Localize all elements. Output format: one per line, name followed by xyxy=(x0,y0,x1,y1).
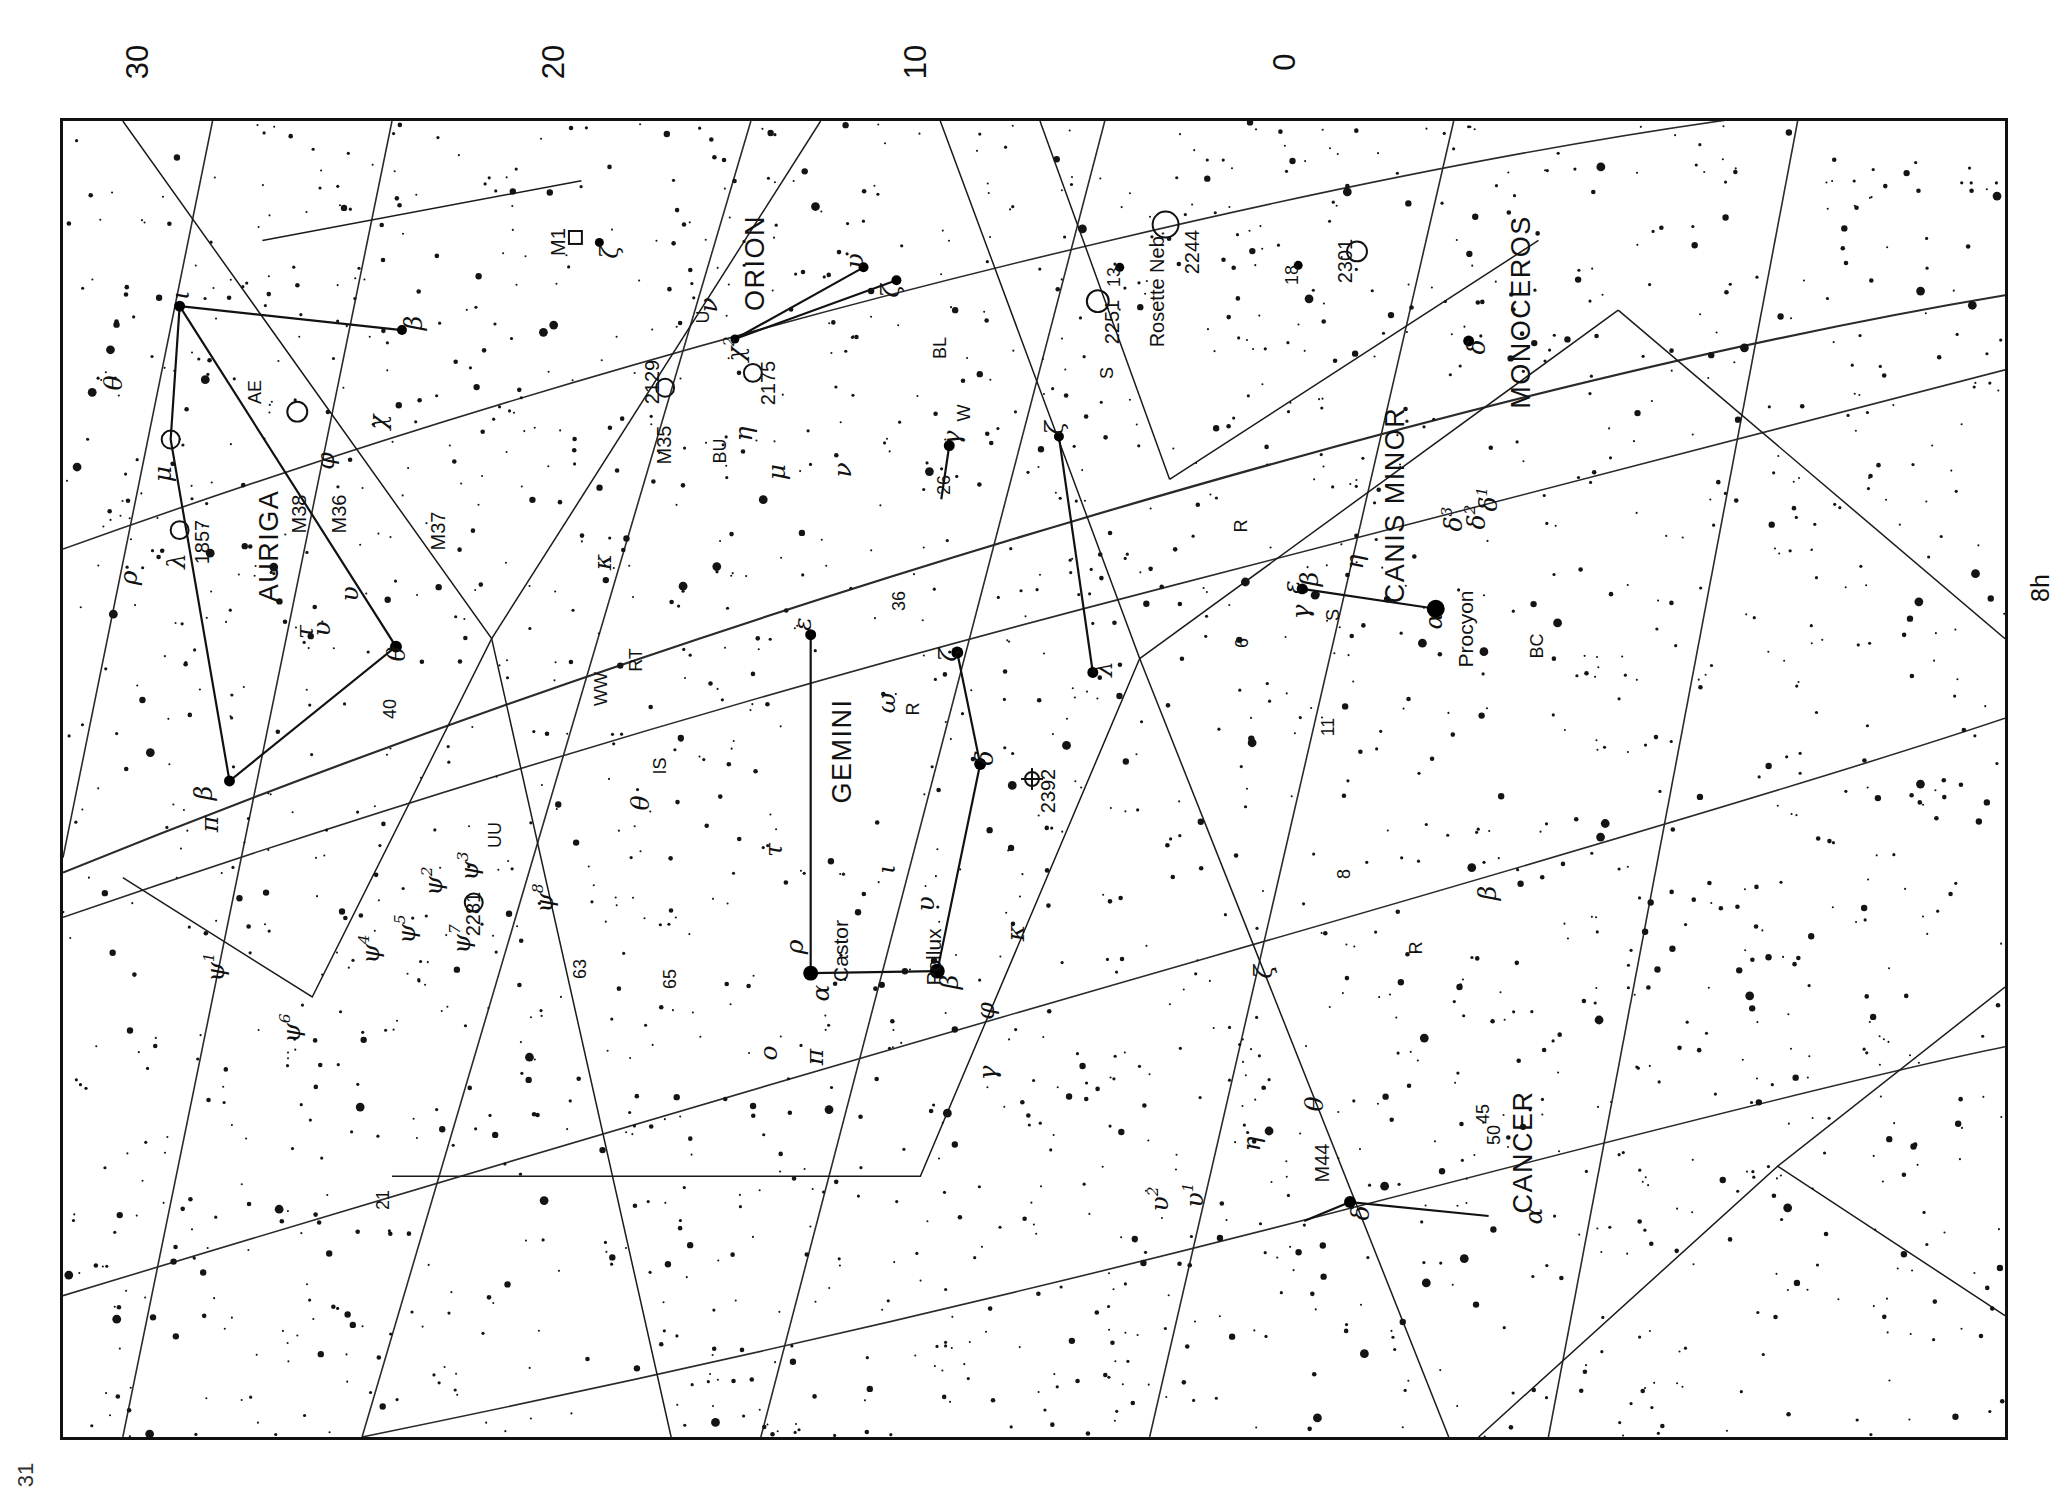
star-label-67: β xyxy=(1475,886,1500,900)
star-label-47: ζ xyxy=(936,648,961,662)
star-label-23: W xyxy=(955,405,973,422)
dso-label-1857: 1857 xyxy=(192,520,212,565)
star-label-28: υ xyxy=(337,586,362,601)
star-label-33: R xyxy=(1232,520,1250,533)
star-label-87: 45 xyxy=(1474,1104,1492,1124)
star-label-18: η xyxy=(731,427,756,442)
star-label-69: ψ7 xyxy=(448,924,473,953)
star-label-83: o xyxy=(756,1045,781,1060)
star-label-4: ζ xyxy=(878,284,903,298)
star-label-59: π xyxy=(197,816,222,832)
star-label-19: BU xyxy=(711,438,729,463)
dso-label-m36: M36 xyxy=(329,495,349,534)
star-label-48: λ xyxy=(1091,661,1116,677)
star-label-43: υ xyxy=(309,621,334,636)
star-label-1: β xyxy=(401,316,426,330)
star-label-71: υ xyxy=(913,896,938,911)
star-label-27: ρ xyxy=(116,571,141,586)
star-label-79: ψ1 xyxy=(202,952,227,981)
star-label-14: θ xyxy=(101,375,126,390)
constellation-label-cancer: CANCER xyxy=(1510,1090,1537,1213)
star-label-92: υ1 xyxy=(1181,1182,1206,1207)
star-label-0: ι xyxy=(168,290,193,300)
declination-tick-0: 0 xyxy=(1267,53,1303,70)
star-label-86: θ xyxy=(1302,1096,1327,1111)
star-label-89: η xyxy=(1239,1137,1264,1152)
star-label-55: IS xyxy=(651,757,669,774)
star-label-20: μ xyxy=(764,464,789,480)
star-label-58: β xyxy=(191,786,216,800)
star-label-7: χ2 xyxy=(722,336,747,361)
constellation-label-auriga: AURIGA xyxy=(256,490,283,603)
dso-label-2244: 2244 xyxy=(1182,230,1202,275)
named-star-label-procyon: Procyon xyxy=(1455,590,1476,667)
declination-tick-30: 30 xyxy=(120,45,156,79)
star-label-30: 26 xyxy=(935,475,953,495)
star-label-46: WW xyxy=(592,672,610,706)
star-label-10: 18 xyxy=(1283,265,1301,285)
star-label-91: υ2 xyxy=(1146,1186,1171,1211)
star-label-17: μ xyxy=(150,466,175,482)
star-label-34: η xyxy=(1342,555,1367,570)
star-label-62: ψ3 xyxy=(456,851,481,880)
dso-label-rosette-neb-: Rosette Neb. xyxy=(1147,231,1167,348)
dso-label-m1: M1 xyxy=(548,228,568,256)
ra-tick-8h: 8h xyxy=(2026,574,2055,602)
star-label-36: ε xyxy=(1279,580,1304,593)
named-star-label-castor: Castor xyxy=(830,920,851,982)
star-label-37: γ xyxy=(1288,605,1313,620)
star-label-78: β xyxy=(937,975,962,989)
star-label-32: ε xyxy=(790,617,815,630)
star-label-39: α xyxy=(1421,613,1446,630)
star-label-41: δ2 xyxy=(1463,505,1488,530)
star-label-24: ζ xyxy=(1042,421,1067,435)
constellation-label-orion: ORION xyxy=(742,215,769,311)
star-label-61: τ xyxy=(761,843,786,857)
star-label-26: λ xyxy=(164,553,189,569)
star-label-22: γ xyxy=(939,431,964,446)
star-label-76: 65 xyxy=(661,969,679,989)
dso-label-2175: 2175 xyxy=(758,361,778,406)
star-label-75: 63 xyxy=(571,959,589,979)
star-label-74: ρ xyxy=(782,940,807,955)
star-label-65: ι xyxy=(874,864,899,874)
star-label-60: UU xyxy=(486,822,504,848)
star-label-72: κ xyxy=(1003,925,1028,941)
star-label-50: 6 xyxy=(1233,638,1251,648)
dso-label-2129: 2129 xyxy=(642,360,662,405)
map-frame: AURIGAGEMINIORIONMONOCEROSCANIS MINORCAN… xyxy=(60,118,2008,1440)
star-label-88: 50 xyxy=(1485,1125,1503,1145)
star-label-49: BC xyxy=(1528,633,1546,658)
star-label-93: δ xyxy=(1348,1205,1373,1220)
constellation-label-canis-minor: CANIS MINOR xyxy=(1382,407,1409,604)
page-number: 31 xyxy=(13,1463,39,1487)
bright-stars xyxy=(63,121,2005,1437)
constellation-label-gemini: GEMINI xyxy=(829,698,856,803)
dso-label-m37: M37 xyxy=(428,512,448,551)
star-label-44: θ xyxy=(384,646,409,661)
star-label-9: 13 xyxy=(1105,267,1123,287)
star-label-8: δ xyxy=(1464,339,1489,354)
star-chart: 3020100 8h 31 xyxy=(0,0,2069,1508)
star-label-21: ν xyxy=(830,462,855,477)
star-label-52: ω xyxy=(874,693,899,713)
star-label-6: U xyxy=(694,311,712,324)
star-label-11: BL xyxy=(931,337,949,359)
dso-label-m44: M44 xyxy=(1312,1144,1332,1183)
star-label-84: π xyxy=(802,1049,827,1065)
star-label-94: α xyxy=(1521,1208,1546,1225)
star-label-80: ψ6 xyxy=(278,1013,303,1042)
dso-label-m38: M38 xyxy=(289,495,309,534)
star-label-53: R xyxy=(904,703,922,716)
star-label-85: γ xyxy=(975,1066,1000,1081)
star-label-31: 36 xyxy=(890,591,908,611)
star-label-81: φ xyxy=(973,1002,998,1020)
star-label-12: S xyxy=(1098,367,1116,379)
star-label-82: ζ xyxy=(1251,965,1276,979)
star-label-64: ψ8 xyxy=(531,883,556,912)
constellation-label-monoceros: MONOCEROS xyxy=(1508,215,1535,409)
star-label-77: α xyxy=(808,985,833,1002)
declination-tick-10: 10 xyxy=(898,45,934,79)
star-label-38: S xyxy=(1324,609,1342,621)
star-label-68: ψ5 xyxy=(393,914,418,943)
